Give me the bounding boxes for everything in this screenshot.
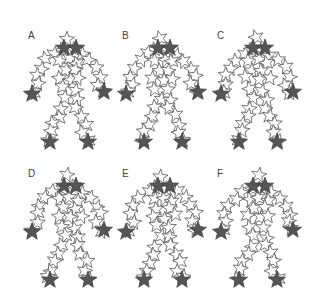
panel-e: E (112, 160, 212, 290)
star-figure (207, 22, 307, 152)
panel-d: D (18, 160, 118, 290)
filled-star-icon-left-foot (230, 271, 247, 287)
panel-c: C (207, 22, 307, 152)
outline-star-icon (54, 237, 69, 252)
star-figure (112, 22, 212, 152)
panel-f: F (207, 160, 307, 290)
star-figure (112, 160, 212, 290)
star-figure (207, 160, 307, 290)
filled-star-icon-left-foot (135, 133, 152, 149)
star-figure (18, 22, 118, 152)
panel-a: A (18, 22, 118, 152)
star-figure (18, 160, 118, 290)
panel-b: B (112, 22, 212, 152)
outline-star-icon (70, 237, 85, 252)
